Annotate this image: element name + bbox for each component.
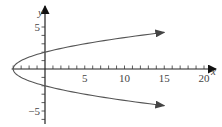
parabola-chart: x y 51015205−5 [0,0,222,127]
x-axis-label: x [210,65,216,77]
y-tick-label: 5 [35,21,41,33]
x-tick-label: 5 [82,72,88,84]
y-tick-label: −5 [28,105,40,117]
lower-branch-curve [13,69,164,106]
x-tick-label: 15 [159,72,171,84]
x-tick-label: 20 [199,72,211,84]
x-tick-label: 10 [119,72,131,84]
upper-branch-curve [13,32,164,69]
y-axis-label: y [37,6,43,18]
